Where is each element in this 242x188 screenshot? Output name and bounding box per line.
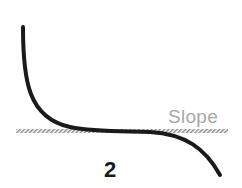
figure-number: 2 (104, 157, 116, 183)
curve (23, 27, 220, 175)
slope-diagram: Slope 2 (0, 0, 242, 188)
diagram-graphic (0, 0, 242, 188)
slope-label: Slope (168, 106, 218, 128)
